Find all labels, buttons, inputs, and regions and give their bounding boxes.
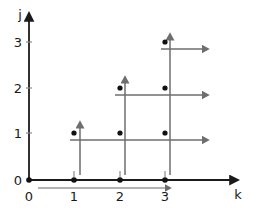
data-point: [117, 130, 122, 135]
axis-names: j k: [17, 7, 242, 202]
horizontal-sweep-arrows: [70, 49, 203, 140]
y-axis-tick-labels: 3 2 1 0: [14, 35, 22, 188]
x-tick-label-3: 3: [161, 189, 169, 204]
data-point: [162, 130, 167, 135]
data-point: [26, 177, 32, 183]
axis-lines: [29, 20, 231, 180]
data-point: [117, 177, 123, 183]
vertical-sweep-arrows: [80, 39, 170, 175]
data-point: [71, 177, 77, 183]
y-axis-label: j: [17, 7, 22, 22]
data-points: [26, 39, 168, 182]
data-point: [117, 85, 122, 90]
x-axis-ticks: [74, 171, 165, 177]
y-tick-label-2: 2: [14, 81, 22, 96]
x-axis-tick-labels: 0 1 2 3: [25, 189, 169, 204]
x-tick-label-0: 0: [25, 189, 33, 204]
data-point: [162, 39, 167, 44]
plot-canvas: 3 2 1 0 0 1 2 3 j k: [0, 0, 257, 216]
x-axis-label: k: [234, 187, 242, 202]
data-point: [162, 85, 167, 90]
data-point: [162, 177, 168, 183]
x-tick-label-2: 2: [116, 189, 124, 204]
y-tick-label-0: 0: [14, 173, 22, 188]
data-point: [71, 130, 76, 135]
y-tick-label-1: 1: [14, 126, 22, 141]
scatter-diagram-figure: 3 2 1 0 0 1 2 3 j k: [0, 0, 257, 216]
y-tick-label-3: 3: [14, 35, 22, 50]
x-tick-label-1: 1: [70, 189, 78, 204]
